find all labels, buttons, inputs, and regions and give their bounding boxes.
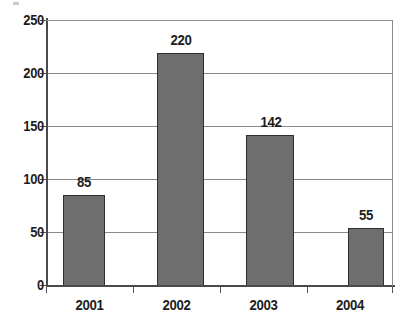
y-tick-label-0: 0 [37, 276, 44, 293]
scan-artifact-speck [13, 2, 19, 5]
bar-2003 [246, 135, 294, 286]
data-label-2002: 220 [154, 31, 209, 48]
y-tick-label-150: 150 [24, 117, 44, 134]
x-tick-label-2001: 2001 [51, 296, 128, 313]
x-tick-mark-0 [46, 287, 47, 293]
x-tick-mark-4 [392, 287, 393, 293]
data-label-2004: 55 [340, 206, 393, 223]
gridline-200 [46, 73, 393, 74]
y-tick-label-50: 50 [30, 223, 44, 240]
plot-border-right [392, 20, 393, 286]
y-axis-line [46, 18, 48, 287]
x-tick-label-2004: 2004 [312, 296, 388, 313]
x-tick-label-2002: 2002 [138, 296, 215, 313]
y-tick-label-250: 250 [24, 11, 44, 28]
bar-chart: 250 200 150 100 50 0 2001 2002 2003 2004… [0, 0, 408, 321]
y-tick-label-100: 100 [24, 170, 44, 187]
x-tick-mark-3 [307, 287, 308, 293]
gridline-150 [46, 126, 393, 127]
data-label-2003: 142 [244, 113, 299, 130]
y-tick-label-200: 200 [24, 64, 44, 81]
bar-2002 [157, 53, 204, 286]
data-label-2001: 85 [58, 173, 111, 190]
x-tick-mark-2 [220, 287, 221, 293]
x-tick-label-2003: 2003 [225, 296, 302, 313]
plot-border-top [46, 20, 393, 21]
x-tick-mark-1 [133, 287, 134, 293]
bar-2004 [348, 228, 384, 286]
bar-2001 [63, 195, 105, 286]
